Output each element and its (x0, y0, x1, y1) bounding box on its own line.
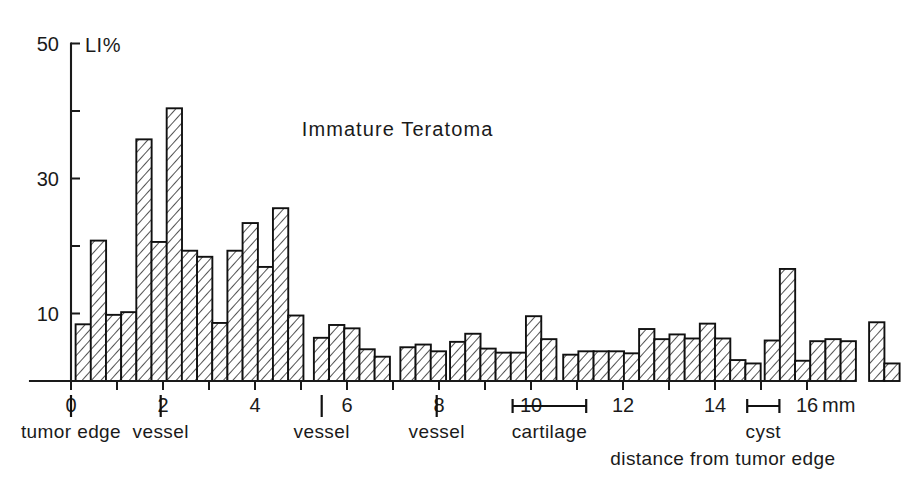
annotation-span-bracket (747, 399, 779, 413)
histogram-bar (526, 316, 541, 381)
histogram-bar (465, 334, 480, 381)
histogram-bar (594, 351, 609, 381)
histogram-bar (375, 357, 390, 381)
histogram-bar (258, 267, 273, 381)
histogram-bar (639, 329, 654, 381)
annotation-label: vessel (294, 421, 350, 442)
histogram-bar (685, 338, 700, 381)
annotation-label: vessel (133, 421, 189, 442)
histogram-bar (780, 269, 795, 381)
histogram-bar (578, 351, 593, 381)
text-group: Immature Teratomadistance from tumor edg… (302, 118, 836, 469)
histogram-bar (624, 353, 639, 381)
annotation-label: vessel (409, 421, 465, 442)
histogram-bar (795, 361, 810, 381)
histogram-bar (669, 334, 684, 381)
histogram-bar (563, 355, 578, 381)
x-axis-tick-label: 6 (341, 394, 352, 416)
histogram-bar (329, 325, 344, 381)
histogram-bar (106, 315, 121, 381)
histogram-bar (121, 312, 136, 381)
y-axis-tick-label: 30 (37, 168, 59, 190)
histogram-bar (182, 251, 197, 381)
x-axis-tick-label: 16 (796, 394, 818, 416)
histogram-bar (212, 323, 227, 381)
annotation-label: cyst (746, 421, 782, 442)
histogram-bar (76, 324, 91, 381)
annotation-label: tumor edge (21, 421, 121, 442)
histogram-bar (480, 349, 495, 381)
bars-group (76, 108, 900, 381)
histogram-bar (869, 322, 884, 381)
x-axis-tick-label: 2 (157, 394, 168, 416)
x-axis-unit-label: mm (822, 394, 855, 416)
histogram-bar (227, 251, 242, 381)
histogram-bar (136, 139, 151, 381)
y-axis-tick-label: 10 (37, 303, 59, 325)
histogram-bar (745, 363, 760, 381)
annotations-group: tumor edgevesselvesselvesselcartilagecys… (21, 395, 781, 442)
histogram-bar (400, 347, 415, 381)
histogram-bar (243, 223, 258, 381)
histogram-bar (314, 338, 329, 381)
histogram-bar (152, 242, 167, 381)
annotation-label: cartilage (512, 421, 587, 442)
x-axis-caption: distance from tumor edge (610, 448, 835, 469)
histogram-bar (273, 208, 288, 381)
histogram-figure: 103050LI%0246810121416mm tumor edgevesse… (0, 0, 915, 483)
chart-canvas: 103050LI%0246810121416mm tumor edgevesse… (0, 0, 915, 483)
x-axis-tick-label: 8 (433, 394, 444, 416)
histogram-bar (167, 108, 182, 381)
histogram-bar (700, 324, 715, 381)
histogram-bar (715, 338, 730, 381)
histogram-bar (450, 342, 465, 381)
x-axis-tick-label: 12 (612, 394, 634, 416)
histogram-bar (344, 328, 359, 381)
histogram-bar (654, 339, 669, 381)
histogram-bar (288, 316, 303, 381)
histogram-bar (431, 351, 446, 381)
histogram-bar (810, 341, 825, 381)
y-axis-tick-label: 50 (37, 33, 59, 55)
histogram-bar (359, 349, 374, 381)
histogram-bar (541, 339, 556, 381)
x-axis-tick-label: 4 (249, 394, 260, 416)
histogram-bar (884, 363, 899, 381)
histogram-bar (511, 353, 526, 381)
histogram-bar (765, 341, 780, 382)
histogram-bar (416, 345, 431, 381)
histogram-bar (91, 241, 106, 381)
histogram-bar (496, 353, 511, 381)
histogram-bar (825, 339, 840, 381)
y-axis-label: LI% (85, 34, 121, 56)
chart-title: Immature Teratoma (302, 118, 494, 140)
histogram-bar (841, 341, 856, 381)
x-axis-tick-label: 14 (704, 394, 726, 416)
histogram-bar (609, 351, 624, 381)
histogram-bar (197, 257, 212, 381)
histogram-bar (730, 360, 745, 381)
